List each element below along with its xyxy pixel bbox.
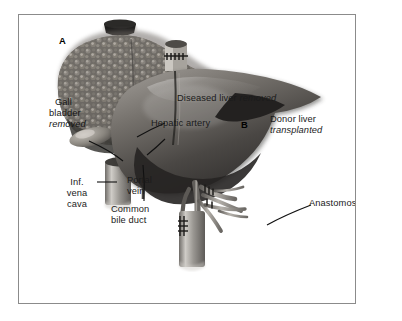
donor-inferior-vena-cava	[178, 211, 205, 271]
liver-transplant-figure: A B Gall bladder removed Diseased liver …	[0, 0, 402, 321]
label-gall-bladder-line3: removed	[49, 119, 86, 130]
label-portal-vein-line1: Portal	[127, 175, 152, 186]
illustration-canvas	[19, 15, 355, 303]
leader-anastomoses	[267, 205, 311, 225]
label-gall-bladder-line2: bladder	[49, 108, 81, 119]
figure-frame: A B Gall bladder removed Diseased liver …	[18, 14, 356, 304]
label-diseased-liver: Diseased liver removed	[177, 93, 276, 104]
label-inf-vena-cava-line1: Inf.	[57, 177, 97, 188]
panel-a-marker: A	[59, 35, 66, 46]
label-portal-vein-line2: vein	[127, 186, 144, 197]
donor-ivc-cuff	[164, 40, 188, 71]
label-donor-liver-state: transplanted	[270, 125, 322, 136]
label-anastomoses: Anastomoses	[309, 198, 356, 209]
label-common-bile-duct-line1: Common	[111, 204, 149, 215]
label-inf-vena-cava-line2: vena	[57, 188, 97, 199]
label-donor-liver: Donor liver	[270, 114, 316, 125]
panel-b-marker: B	[241, 119, 248, 130]
label-inf-vena-cava-line3: cava	[57, 199, 97, 210]
label-common-bile-duct-line2: bile duct	[111, 215, 147, 226]
label-hepatic-artery: Hepatic artery	[151, 118, 210, 129]
label-gall-bladder-line1: Gall	[55, 97, 72, 108]
